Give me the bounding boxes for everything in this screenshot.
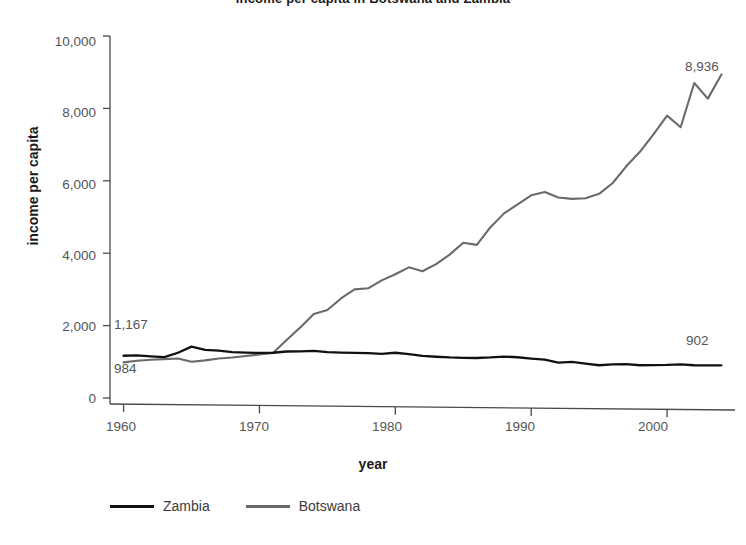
chart-legend: Zambia Botswana: [110, 494, 360, 518]
chart-figure: Income per capita in Botswana and Zambia…: [0, 0, 746, 545]
legend-swatch-zambia: [110, 505, 154, 508]
series-line-botswana: [124, 75, 722, 363]
legend-swatch-botswana: [246, 505, 290, 508]
legend-item-zambia[interactable]: Zambia: [110, 498, 210, 514]
legend-label-zambia: Zambia: [163, 498, 210, 514]
legend-item-botswana[interactable]: Botswana: [246, 498, 360, 514]
axis-lines: [110, 36, 735, 410]
y-tick-marks: [103, 36, 110, 398]
plot-area: [0, 0, 746, 545]
legend-label-botswana: Botswana: [299, 498, 360, 514]
series-line-zambia: [124, 347, 722, 366]
